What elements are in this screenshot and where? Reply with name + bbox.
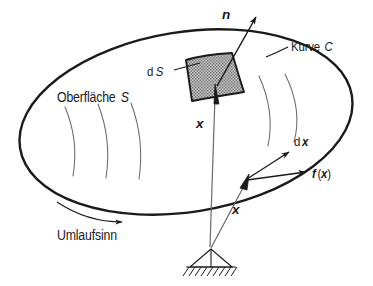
surface-element-symbol: S xyxy=(156,64,163,79)
line-element-d: d xyxy=(294,134,300,149)
surface-field-lines-left xyxy=(65,103,141,179)
surface-element-d: d xyxy=(147,64,153,79)
surface-symbol: S xyxy=(121,89,129,105)
surface-field-lines-right xyxy=(259,74,297,146)
line-element-symbol: x xyxy=(302,134,308,149)
position-vector-lower-label: x xyxy=(232,203,239,217)
position-vector-lower xyxy=(211,174,249,248)
surface-element-label: dS xyxy=(147,65,163,78)
curve-label: KurveC xyxy=(291,40,333,53)
surface-label-text: Oberfläche xyxy=(57,89,116,105)
force-f: f xyxy=(312,166,316,181)
position-vector-upper-label: x xyxy=(196,117,203,131)
curve-symbol: C xyxy=(324,39,332,54)
force-close-paren: ) xyxy=(327,166,331,181)
force-vector-label: f(x) xyxy=(312,167,331,180)
orientation-label: Umlaufsinn xyxy=(57,228,117,242)
figure-canvas: n KurveC dS OberflächeS x x dx f(x) Umla… xyxy=(0,0,373,286)
pinned-support-symbol xyxy=(183,249,237,276)
kurve-c-leader-line xyxy=(266,47,288,57)
position-vector-upper xyxy=(210,84,219,247)
line-element-dx-label: dx xyxy=(294,135,308,148)
surface-label: OberflächeS xyxy=(57,90,129,104)
curve-label-text: Kurve xyxy=(291,40,320,53)
normal-vector-label: n xyxy=(222,8,230,22)
